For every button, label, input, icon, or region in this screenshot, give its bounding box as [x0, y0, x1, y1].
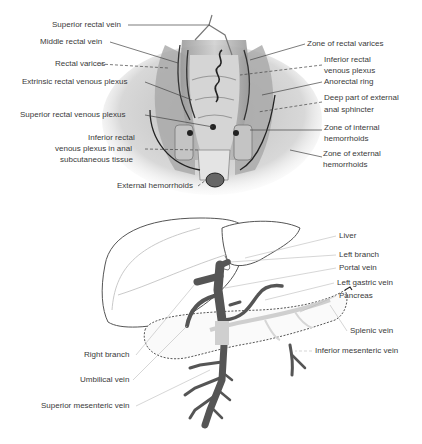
label-umbilical-vein: Umbilical vein	[80, 375, 129, 385]
label-left-branch: Left branch	[339, 250, 379, 260]
portal-vein-segment	[215, 321, 229, 345]
label-anorectal-ring: Anorectal ring	[324, 77, 373, 87]
label-pancreas: Pancreas	[339, 291, 373, 301]
label-zone-internal-hemorrhoids-line1: Zone of internal	[324, 123, 380, 133]
label-portal-vein: Portal vein	[339, 263, 377, 273]
label-splenic-vein: Splenic vein	[350, 326, 393, 336]
label-middle-rectal-vein: Middle rectal vein	[40, 37, 102, 47]
label-inferior-rectal-venous-plexus-line1: Inferior rectal	[88, 133, 135, 143]
label-inferior-mesenteric-vein: Inferior mesenteric vein	[315, 346, 398, 356]
label-zone-external-hemorrhoids-line2: hemorrhoids	[323, 160, 367, 170]
label-zone-external-hemorrhoids-line1: Zone of external	[323, 149, 381, 159]
label-superior-rectal-venous-plexus: Superior rectal venous plexus	[20, 110, 125, 120]
label-zone-of-rectal-varices: Zone of rectal varices	[307, 39, 383, 49]
label-rectal-varices: Rectal varices	[55, 59, 105, 69]
label-superior-mesenteric-vein: Superior mesenteric vein	[41, 401, 129, 411]
label-deep-external-anal-sphincter-line2: anal sphincter	[324, 105, 374, 115]
label-superior-rectal-vein: Superior rectal vein	[52, 20, 121, 30]
label-inferior-rectal-venous-plexus-right-line1: Inferior rectal	[324, 55, 371, 65]
label-inferior-rectal-venous-plexus-line2: venous plexus in anal	[55, 144, 132, 154]
label-deep-external-anal-sphincter-line1: Deep part of external	[324, 93, 399, 103]
label-inferior-rectal-venous-plexus-right-line2: venous plexus	[324, 66, 375, 76]
label-extrinsic-rectal-venous-plexus: Extrinsic rectal venous plexus	[22, 77, 127, 87]
label-left-gastric-vein: Left gastric vein	[337, 278, 393, 288]
label-right-branch: Right branch	[84, 350, 129, 360]
label-inferior-rectal-venous-plexus-line3: subcutaneous tissue	[60, 155, 133, 165]
label-external-hemorrhoids: External hemorrhoids	[117, 181, 193, 191]
rectum-drawing	[102, 15, 322, 195]
label-zone-internal-hemorrhoids-line2: hemorrhoids	[324, 134, 368, 144]
label-liver: Liver	[339, 231, 356, 241]
